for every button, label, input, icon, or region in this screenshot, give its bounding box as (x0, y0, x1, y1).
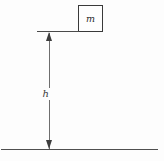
arrow-up-icon (46, 32, 52, 41)
mass-block: m (78, 5, 103, 32)
arrow-down-icon (46, 140, 52, 149)
height-dimension-label: h (41, 88, 50, 100)
mass-block-label: m (86, 14, 95, 24)
physics-height-diagram: m h (0, 0, 164, 161)
ground-reference-line (1, 149, 158, 150)
upper-reference-line (37, 31, 79, 32)
